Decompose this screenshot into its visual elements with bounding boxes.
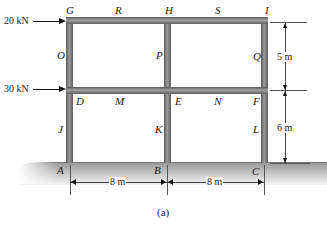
dim-ext-bottom (270, 163, 310, 164)
joint-label-f: F (253, 96, 260, 107)
joint-label-s: S (215, 5, 221, 16)
dim-arrow-left-icon (168, 179, 173, 185)
joint-label-n: N (214, 96, 221, 107)
joint-label-p: P (156, 50, 163, 61)
load-20kn-arrow-icon (59, 18, 66, 24)
figure-caption: (a) (157, 206, 169, 218)
joint-label-q: Q (253, 51, 261, 62)
dim-bay-right: 8 m (206, 177, 223, 187)
joint-label-d: D (76, 96, 84, 107)
dim-arrow-right-icon (161, 179, 166, 185)
dim-arrow-up-icon (283, 91, 287, 96)
joint-label-a: A (57, 165, 64, 176)
joint-label-r: R (115, 5, 122, 16)
dim-arrow-down-icon (283, 85, 287, 90)
beam-d-f (66, 87, 268, 94)
load-20kn-shaft (33, 21, 59, 22)
joint-label-b: B (154, 165, 161, 176)
load-20kn-label: 20 kN (4, 16, 29, 26)
dim-arrow-down-icon (283, 158, 287, 163)
dim-tick-c (264, 165, 265, 195)
joint-label-l: L (253, 124, 259, 135)
dim-ext-mid (270, 90, 307, 91)
joint-label-i: I (265, 5, 269, 16)
dim-arrow-left-icon (71, 179, 76, 185)
dim-arrow-up-icon (283, 23, 287, 28)
panel-upper-right (171, 24, 261, 87)
load-30kn-arrow-icon (59, 86, 66, 92)
dim-arrow-right-icon (258, 179, 263, 185)
dim-bay-left: 8 m (109, 177, 126, 187)
load-30kn-label: 30 kN (4, 84, 29, 94)
joint-label-c: C (252, 166, 259, 177)
joint-label-h: H (165, 5, 173, 16)
joint-label-m: M (115, 96, 124, 107)
beam-g-i (66, 17, 268, 24)
dim-upper-story: 5 m (276, 52, 293, 62)
joint-label-e: E (175, 96, 182, 107)
panel-upper-left (73, 24, 164, 87)
joint-label-g: G (66, 5, 74, 16)
ground-fade (18, 162, 58, 184)
load-30kn-shaft (33, 89, 59, 90)
dim-lower-story: 6 m (276, 123, 293, 133)
joint-label-k: K (155, 124, 162, 135)
joint-label-j: J (58, 124, 63, 135)
dim-ext-top (270, 22, 307, 23)
joint-label-o: O (57, 50, 65, 61)
